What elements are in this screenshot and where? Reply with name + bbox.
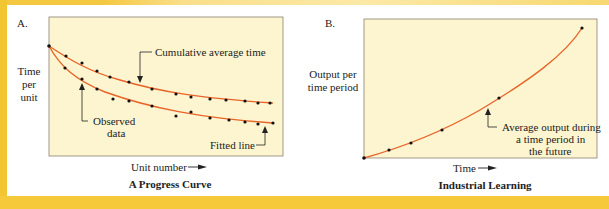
charts-canvas: Cumulative average time Observed data Fi…	[0, 0, 609, 209]
arrow-right-icon	[488, 166, 497, 171]
arrow-right-icon	[198, 165, 207, 170]
panel-a-observed-label-2: data	[107, 127, 125, 139]
panel-a-observed-label-1: Observed	[93, 115, 136, 127]
panel-b-annotation-line-3: the future	[529, 145, 572, 157]
panel-a-fitted-label: Fitted line	[210, 139, 255, 151]
panel-b-annotation-line-1: Average output during	[502, 121, 601, 133]
panel-a-cumulative-label: Cumulative average time	[155, 46, 266, 58]
panel-a-plot-area	[49, 17, 283, 156]
panel-b-annotation-line-2: a time period in	[516, 133, 586, 145]
